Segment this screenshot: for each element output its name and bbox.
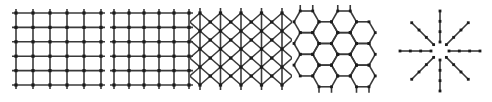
lattice-node bbox=[293, 64, 296, 67]
lattice-node bbox=[172, 40, 175, 43]
lattice-node bbox=[349, 53, 352, 56]
lattice-node bbox=[452, 36, 455, 39]
lattice-node bbox=[368, 42, 371, 45]
lattice-node bbox=[299, 31, 302, 34]
hexagonal-lattice-group bbox=[293, 5, 377, 93]
lattice-node bbox=[239, 83, 242, 86]
lattice-node bbox=[142, 11, 145, 14]
lattice-node bbox=[439, 69, 442, 72]
lattice-node bbox=[48, 40, 51, 43]
lattice-edge bbox=[294, 22, 300, 33]
hexagonal-lattice-svg bbox=[284, 0, 390, 102]
lattice-edge bbox=[313, 65, 319, 76]
lattice-node bbox=[410, 78, 413, 81]
lattice-node bbox=[349, 31, 352, 34]
lattice-node bbox=[219, 47, 222, 50]
lattice-node bbox=[299, 75, 302, 78]
lattice-node bbox=[157, 55, 160, 58]
lattice-node bbox=[355, 85, 358, 88]
lattice-node bbox=[198, 65, 201, 68]
lattice-node bbox=[172, 69, 175, 72]
lattice-edge bbox=[313, 22, 319, 33]
triangular-lattice-group bbox=[190, 8, 292, 90]
lattice-node bbox=[239, 11, 242, 14]
lattice-edge bbox=[190, 49, 200, 67]
lattice-node bbox=[336, 53, 339, 56]
lattice-node bbox=[445, 56, 448, 59]
lattice-node bbox=[14, 26, 17, 29]
lattice-node bbox=[127, 11, 130, 14]
lattice-node bbox=[112, 83, 115, 86]
lattice-node bbox=[467, 21, 470, 24]
lattice-edge bbox=[350, 33, 356, 44]
lattice-node bbox=[311, 75, 314, 78]
lattice-node bbox=[374, 75, 377, 78]
lattice-node bbox=[127, 83, 130, 86]
lattice-node bbox=[430, 50, 433, 53]
lattice-node bbox=[330, 64, 333, 67]
lattice-node bbox=[399, 50, 402, 53]
lattice-edge bbox=[294, 43, 300, 54]
lattice-node bbox=[229, 74, 232, 77]
lattice-node bbox=[142, 26, 145, 29]
lattice-node bbox=[112, 55, 115, 58]
lattice-edge bbox=[190, 31, 200, 49]
lattice-node bbox=[418, 29, 421, 32]
lattice-node bbox=[349, 75, 352, 78]
lattice-node bbox=[157, 11, 160, 14]
lattice-edge bbox=[332, 54, 338, 65]
lattice-node bbox=[425, 36, 428, 39]
lattice-edge bbox=[369, 43, 375, 54]
lattice-node bbox=[425, 63, 428, 66]
lattice-node bbox=[374, 31, 377, 34]
lattice-edge bbox=[332, 65, 338, 76]
lattice-node bbox=[439, 10, 442, 13]
lattice-node bbox=[198, 47, 201, 50]
lattice-node bbox=[142, 69, 145, 72]
lattice-node bbox=[439, 41, 442, 44]
lattice-node bbox=[299, 10, 302, 13]
lattice-node bbox=[318, 85, 321, 88]
lattice-edge bbox=[190, 67, 200, 85]
lattice-node bbox=[48, 11, 51, 14]
lattice-node bbox=[82, 26, 85, 29]
lattice-node bbox=[172, 26, 175, 29]
radial-star-lattice-svg bbox=[387, 0, 492, 102]
lattice-node bbox=[112, 26, 115, 29]
lattice-node bbox=[219, 65, 222, 68]
lattice-node bbox=[31, 11, 34, 14]
lattice-node bbox=[127, 40, 130, 43]
lattice-node bbox=[112, 40, 115, 43]
lattice-node bbox=[368, 64, 371, 67]
lattice-edge bbox=[369, 54, 375, 65]
lattice-node bbox=[418, 71, 421, 74]
lattice-node bbox=[209, 56, 212, 59]
lattice-edge bbox=[332, 33, 338, 44]
lattice-node bbox=[31, 83, 34, 86]
lattice-figure bbox=[0, 0, 492, 102]
lattice-node bbox=[468, 50, 471, 53]
lattice-node bbox=[142, 40, 145, 43]
lattice-node bbox=[439, 79, 442, 82]
lattice-node bbox=[157, 69, 160, 72]
lattice-edge bbox=[190, 49, 200, 67]
lattice-edge bbox=[190, 31, 200, 49]
lattice-edge bbox=[313, 33, 319, 44]
lattice-edge bbox=[446, 57, 468, 79]
lattice-node bbox=[157, 26, 160, 29]
lattice-node bbox=[349, 10, 352, 13]
lattice-node bbox=[299, 53, 302, 56]
lattice-node bbox=[260, 47, 263, 50]
lattice-node bbox=[448, 50, 451, 53]
lattice-node bbox=[198, 11, 201, 14]
triangular-lattice-svg bbox=[190, 0, 292, 102]
lattice-node bbox=[330, 85, 333, 88]
lattice-node bbox=[142, 55, 145, 58]
lattice-node bbox=[260, 11, 263, 14]
lattice-edge bbox=[313, 43, 319, 54]
lattice-node bbox=[293, 20, 296, 23]
lattice-edge bbox=[412, 23, 434, 45]
lattice-node bbox=[48, 26, 51, 29]
lattice-node bbox=[198, 83, 201, 86]
lattice-node bbox=[270, 56, 273, 59]
